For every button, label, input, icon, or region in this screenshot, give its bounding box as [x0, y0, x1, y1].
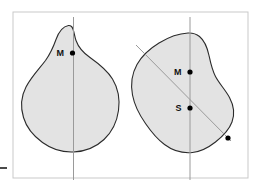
- right-s-marker: [187, 105, 192, 110]
- two-blob-diagram: M M S: [0, 0, 261, 193]
- right-s-label: S: [175, 103, 181, 113]
- right-end-marker: [225, 135, 230, 140]
- left-blob: [22, 25, 119, 152]
- left-centroid-marker: [70, 50, 75, 55]
- right-blob: [132, 33, 234, 153]
- right-shape-group: M S: [132, 17, 234, 180]
- figure-container: M M S: [0, 0, 261, 193]
- right-centroid-marker: [187, 69, 192, 74]
- left-centroid-label: M: [57, 48, 65, 58]
- left-edge-tick: [0, 167, 7, 169]
- right-centroid-label: M: [174, 67, 182, 77]
- left-shape-group: M: [22, 17, 119, 180]
